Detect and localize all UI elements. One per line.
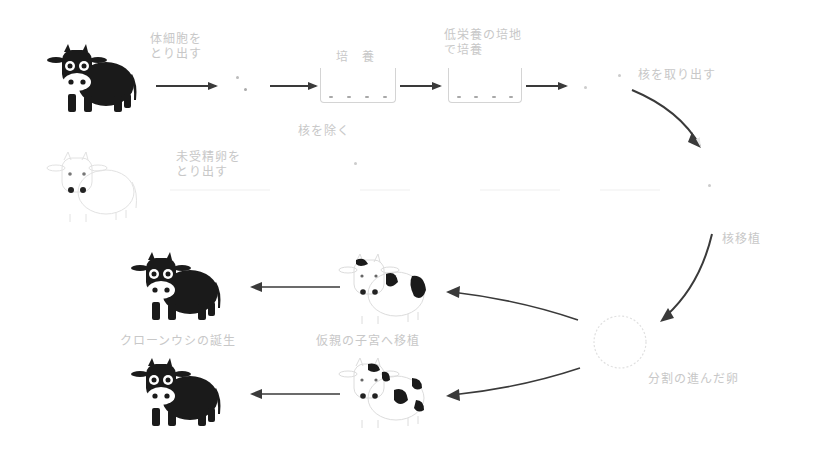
dividing-egg-icon <box>588 310 658 380</box>
culture-dish-1 <box>320 68 396 103</box>
clone-cow-icon-2 <box>130 358 230 438</box>
nucleus-dot <box>618 74 621 77</box>
label-extract-unfertilized-egg: 未受精卵を とり出す <box>176 150 241 180</box>
arrow-curve-to-surrogate-1 <box>452 292 578 320</box>
egg-donor-cow-icon <box>46 152 146 232</box>
somatic-cell-dot <box>244 88 247 91</box>
label-low-nutrient-culture: 低栄養の培地 で培養 <box>444 28 522 58</box>
somatic-cell-dot <box>236 76 239 79</box>
label-extract-somatic-cell: 体細胞を とり出す <box>150 32 202 62</box>
nucleus-dot <box>584 86 587 89</box>
clone-cow-icon-1 <box>130 252 230 332</box>
arrow-curve-transplant <box>666 234 712 316</box>
nucleus-dot <box>708 184 711 187</box>
label-culture: 培 養 <box>336 50 375 65</box>
nucleus-dot <box>354 162 357 165</box>
label-extract-nucleus: 核を取り出す <box>638 68 716 83</box>
label-transfer-to-surrogate: 仮親の子宮へ移植 <box>316 334 420 349</box>
arrow-curve-to-surrogate-2 <box>452 368 580 395</box>
surrogate-cow-icon-1 <box>338 254 438 334</box>
label-remove-nucleus: 核を除く <box>298 124 350 139</box>
label-nuclear-transfer: 核移植 <box>722 232 761 247</box>
label-clone-birth: クローンウシの誕生 <box>120 334 236 349</box>
culture-dish-2 <box>448 68 522 103</box>
surrogate-cow-icon-2 <box>338 358 438 438</box>
label-dividing-egg: 分割の進んだ卵 <box>648 372 739 387</box>
donor-cow-icon <box>46 44 146 124</box>
